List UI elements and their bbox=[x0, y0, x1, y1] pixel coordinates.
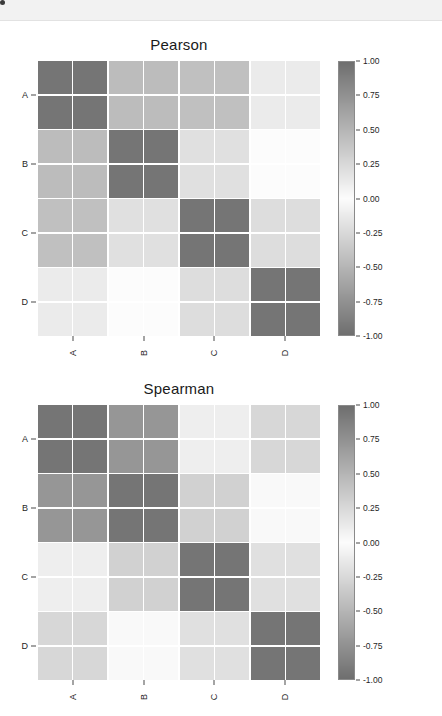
spearman-colorbar: 1.000.750.500.250.00-0.25-0.50-0.75-1.00 bbox=[338, 405, 438, 680]
colorbar-tick-label: -0.50 bbox=[363, 262, 382, 272]
heatmap-cell bbox=[180, 578, 214, 611]
heatmap-cell bbox=[144, 130, 178, 163]
heatmap-cell bbox=[73, 199, 107, 232]
heatmap-cell bbox=[180, 268, 214, 301]
colorbar-tick bbox=[356, 576, 360, 577]
colorbar-tick-label: 0.25 bbox=[363, 159, 380, 169]
heatmap-cell bbox=[144, 578, 178, 611]
heatmap-cell bbox=[144, 612, 178, 645]
heatmap-cell bbox=[38, 612, 72, 645]
colorbar-tick bbox=[356, 508, 360, 509]
x-axis-tick bbox=[284, 336, 285, 341]
heatmap-cell bbox=[38, 303, 72, 336]
heatmap-cell bbox=[38, 130, 72, 163]
pearson-colorbar: 1.000.750.500.250.00-0.25-0.50-0.75-1.00 bbox=[338, 61, 438, 336]
heatmap-cell bbox=[109, 303, 143, 336]
heatmap-cell bbox=[109, 234, 143, 267]
heatmap-cell bbox=[286, 543, 320, 576]
y-axis-tick bbox=[31, 645, 36, 646]
heatmap-cell bbox=[73, 440, 107, 473]
heatmap-cell bbox=[286, 130, 320, 163]
heatmap-cell bbox=[251, 61, 285, 94]
colorbar-tick bbox=[356, 473, 360, 474]
heatmap-cell bbox=[251, 199, 285, 232]
heatmap-cell bbox=[144, 96, 178, 129]
heatmap-cell bbox=[73, 543, 107, 576]
heatmap-cell bbox=[144, 509, 178, 542]
spearman-heatmap bbox=[38, 405, 320, 680]
heatmap-cell bbox=[180, 612, 214, 645]
heatmap-cell bbox=[73, 303, 107, 336]
heatmap-cell bbox=[73, 234, 107, 267]
x-axis-label-a: A bbox=[68, 350, 78, 356]
heatmap-cell bbox=[180, 440, 214, 473]
x-axis-label-a: A bbox=[68, 694, 78, 700]
heatmap-cell bbox=[215, 96, 249, 129]
heatmap-cell bbox=[215, 165, 249, 198]
colorbar-tick-label: 1.00 bbox=[363, 400, 380, 410]
y-axis-label-c: C bbox=[22, 228, 29, 238]
heatmap-cell bbox=[109, 61, 143, 94]
y-axis-label-a: A bbox=[22, 90, 28, 100]
colorbar-tick-label: 0.50 bbox=[363, 125, 380, 135]
heatmap-cell bbox=[286, 96, 320, 129]
colorbar-tick-label: -0.25 bbox=[363, 228, 382, 238]
heatmap-cell bbox=[109, 130, 143, 163]
heatmap-cell bbox=[144, 268, 178, 301]
colorbar-tick bbox=[356, 405, 360, 406]
x-axis-tick bbox=[143, 336, 144, 341]
heatmap-cell bbox=[251, 303, 285, 336]
heatmap-cell bbox=[286, 509, 320, 542]
heatmap-cell bbox=[286, 405, 320, 438]
heatmap-cell bbox=[215, 612, 249, 645]
heatmap-cell bbox=[38, 61, 72, 94]
heatmap-cell bbox=[180, 130, 214, 163]
heatmap-cell bbox=[144, 474, 178, 507]
heatmap-cell bbox=[251, 509, 285, 542]
heatmap-cell bbox=[251, 474, 285, 507]
heatmap-cell bbox=[38, 474, 72, 507]
pearson-x-axis: ABCD bbox=[38, 336, 320, 370]
heatmap-cell bbox=[38, 234, 72, 267]
heatmap-cell bbox=[73, 578, 107, 611]
colorbar-tick bbox=[356, 439, 360, 440]
heatmap-cell bbox=[180, 96, 214, 129]
heatmap-cell bbox=[73, 268, 107, 301]
heatmap-cell bbox=[251, 268, 285, 301]
y-axis-label-b: B bbox=[22, 503, 28, 513]
heatmap-cell bbox=[109, 96, 143, 129]
heatmap-cell bbox=[144, 543, 178, 576]
colorbar-tick bbox=[356, 232, 360, 233]
spearman-figure: Spearman ABCD ABCD 1.000.750.500.250.00-… bbox=[0, 368, 442, 716]
y-axis-label-d: D bbox=[22, 641, 29, 651]
colorbar-tick bbox=[356, 198, 360, 199]
colorbar-tick-label: 0.00 bbox=[363, 194, 380, 204]
y-axis-label-d: D bbox=[22, 297, 29, 307]
heatmap-cell bbox=[251, 130, 285, 163]
heatmap-cell bbox=[73, 647, 107, 680]
heatmap-cell bbox=[215, 303, 249, 336]
heatmap-cell bbox=[215, 474, 249, 507]
heatmap-cell bbox=[286, 61, 320, 94]
y-axis-tick bbox=[31, 508, 36, 509]
heatmap-cell bbox=[73, 165, 107, 198]
x-axis-tick bbox=[284, 680, 285, 685]
heatmap-cell bbox=[215, 647, 249, 680]
heatmap-cell bbox=[251, 612, 285, 645]
heatmap-cell bbox=[109, 199, 143, 232]
heatmap-cell bbox=[251, 234, 285, 267]
heatmap-cell bbox=[286, 474, 320, 507]
colorbar-tick bbox=[356, 336, 360, 337]
heatmap-cell bbox=[109, 405, 143, 438]
heatmap-cell bbox=[180, 405, 214, 438]
colorbar-tick-label: -1.00 bbox=[363, 331, 382, 341]
x-axis-tick bbox=[143, 680, 144, 685]
heatmap-cell bbox=[286, 647, 320, 680]
heatmap-cell bbox=[73, 405, 107, 438]
heatmap-cell bbox=[251, 165, 285, 198]
spearman-x-axis: ABCD bbox=[38, 680, 320, 714]
heatmap-cell bbox=[286, 234, 320, 267]
heatmap-cell bbox=[215, 234, 249, 267]
y-axis-label-c: C bbox=[22, 572, 29, 582]
heatmap-cell bbox=[144, 647, 178, 680]
